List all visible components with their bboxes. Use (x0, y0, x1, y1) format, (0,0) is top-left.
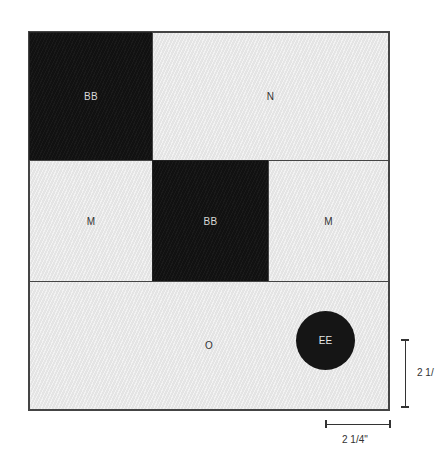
piece-label: BB (84, 91, 98, 102)
piece-m-middle-right: M (268, 160, 389, 282)
piece-bb-top-left: BB (29, 32, 153, 161)
circle-label: EE (319, 335, 332, 346)
dim-cap-bottom (401, 406, 409, 408)
piece-label: M (324, 216, 333, 227)
dim-line-vertical (405, 339, 406, 407)
horizontal-dimension-label: 2 1/4" (342, 434, 368, 445)
piece-m-middle-left: M (29, 160, 153, 282)
piece-label: N (267, 91, 275, 102)
piece-label: BB (204, 216, 218, 227)
dim-cap-right (389, 420, 391, 428)
piece-n-top-right: N (152, 32, 389, 161)
vertical-dimension-label: 2 1/ (417, 367, 434, 378)
dim-line-horizontal (325, 424, 390, 425)
piece-label: M (87, 216, 96, 227)
piece-bb-middle-center: BB (152, 160, 269, 282)
piece-label: O (205, 340, 213, 351)
piece-ee-circle: EE (296, 311, 355, 370)
